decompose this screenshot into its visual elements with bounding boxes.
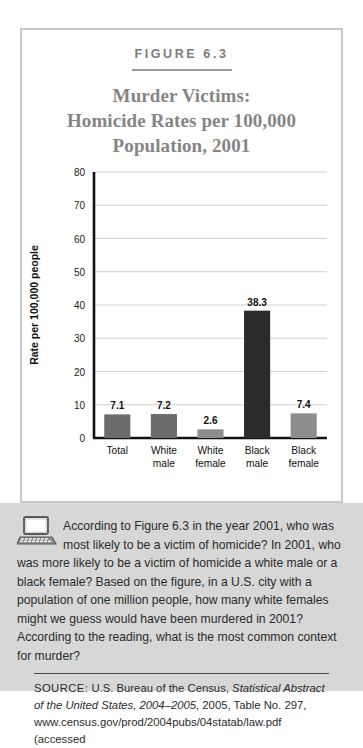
bar-value-label: 7.2 — [157, 400, 171, 411]
source-label: SOURCE: — [34, 682, 88, 694]
x-axis-category-label: female — [195, 458, 226, 469]
x-axis-category-label: Black — [245, 445, 271, 456]
y-axis-tick-label: 70 — [74, 200, 86, 211]
bar-value-label: 7.4 — [297, 399, 311, 410]
x-axis-category-label: Total — [107, 445, 129, 456]
x-axis-category-label: White — [151, 445, 177, 456]
bar — [104, 414, 130, 438]
question-text-content: According to Figure 6.3 in the year 2001… — [17, 519, 341, 663]
figure-title-line-1: Murder Victims: — [38, 83, 325, 108]
y-axis-tick-label: 80 — [74, 167, 86, 178]
x-axis-category-label: Black — [291, 445, 317, 456]
y-axis-tick-label: 10 — [74, 400, 86, 411]
figure-frame: FIGURE 6.3 Murder Victims: Homicide Rate… — [20, 28, 343, 503]
x-axis-category-label: male — [153, 458, 175, 469]
question-body: According to Figure 6.3 in the year 2001… — [0, 503, 363, 748]
question-panel: According to Figure 6.3 in the year 2001… — [0, 503, 363, 691]
y-axis-tick-label: 50 — [74, 267, 86, 278]
computer-icon — [17, 516, 59, 546]
figure-label-block: FIGURE 6.3 — [22, 30, 341, 71]
x-axis-category-label: male — [246, 458, 268, 469]
bar-value-label: 7.1 — [110, 400, 124, 411]
y-axis-tick-label: 20 — [74, 367, 86, 378]
bar — [291, 413, 317, 438]
figure-title: Murder Victims: Homicide Rates per 100,0… — [38, 83, 325, 158]
bar — [151, 414, 177, 438]
bar — [197, 429, 223, 438]
source-citation: SOURCE: U.S. Bureau of the Census, Stati… — [34, 680, 329, 748]
y-axis-tick-label: 30 — [74, 333, 86, 344]
bar-value-label: 2.6 — [204, 415, 218, 426]
bar-value-label: 38.3 — [247, 297, 267, 308]
source-divider — [34, 673, 329, 674]
chart-canvas: 01020304050607080Rate per 100,000 people… — [22, 160, 341, 500]
figure-title-line-3: Population, 2001 — [38, 133, 325, 158]
y-axis-title: Rate per 100,000 people — [28, 245, 40, 365]
x-axis-category-label: female — [288, 458, 319, 469]
figure-label: FIGURE 6.3 — [22, 47, 341, 61]
y-axis-tick-label: 0 — [79, 433, 85, 444]
figure-label-divider — [132, 69, 232, 71]
bar-chart: 01020304050607080Rate per 100,000 people… — [22, 160, 341, 500]
y-axis-tick-label: 40 — [74, 300, 86, 311]
question-text: According to Figure 6.3 in the year 2001… — [17, 517, 346, 665]
figure-title-line-2: Homicide Rates per 100,000 — [38, 108, 325, 133]
y-axis-tick-label: 60 — [74, 234, 86, 245]
source-part-1: U.S. Bureau of the Census, — [88, 682, 232, 694]
bar — [244, 311, 270, 438]
x-axis-category-label: White — [197, 445, 223, 456]
